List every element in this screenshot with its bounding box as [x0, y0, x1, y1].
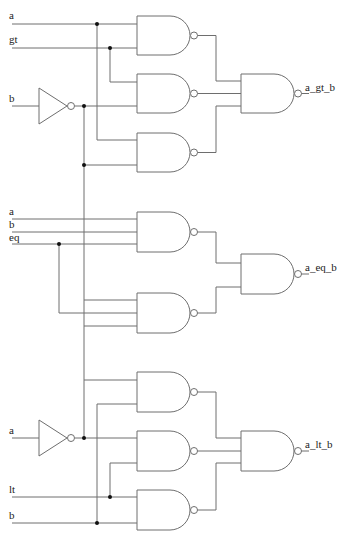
nand-lt-3-bubble — [191, 507, 198, 514]
nand-gt-3-bubble — [191, 149, 198, 156]
input-label-b-eq: b — [9, 218, 15, 230]
wire-eq2-out — [198, 287, 242, 313]
eq-section: a b eq a_eq_b — [9, 205, 337, 333]
junction-a — [95, 22, 99, 26]
nand-lt-1-bubble — [191, 389, 198, 396]
wire-gt3-out — [198, 106, 242, 153]
inverter-b-bubble — [68, 103, 75, 110]
wire-lt1-out — [198, 392, 242, 438]
junction-notb-2 — [82, 163, 86, 167]
nand-eq-2 — [137, 293, 190, 333]
nand-gt-1 — [137, 16, 190, 55]
input-label-a-lt: a — [9, 424, 14, 436]
nand-gt-2 — [137, 74, 190, 113]
junction-b-lt — [95, 521, 99, 525]
nand-lt-output-bubble — [295, 448, 302, 455]
inverter-b — [39, 88, 67, 124]
comparator-circuit: a gt b a_gt_b — [0, 0, 347, 539]
nand-gt-2-bubble — [191, 90, 198, 97]
inverter-a-bubble — [68, 435, 75, 442]
input-label-gt: gt — [9, 33, 18, 45]
wire-eq1-out — [198, 232, 242, 263]
input-label-eq: eq — [9, 231, 20, 243]
input-label-a: a — [9, 9, 14, 21]
nand-lt-output — [241, 431, 294, 471]
output-label-a-gt-b: a_gt_b — [305, 81, 335, 93]
wire-lt3-out — [198, 463, 242, 510]
nand-eq-1-bubble — [191, 229, 198, 236]
output-label-a-eq-b: a_eq_b — [305, 261, 337, 273]
junction-gt — [108, 46, 112, 50]
junction-notb — [82, 104, 86, 108]
wire-notb-vertical — [84, 106, 137, 326]
nand-gt-3 — [137, 133, 190, 172]
nand-gt-1-bubble — [191, 32, 198, 39]
input-label-b-lt: b — [9, 509, 15, 521]
lt-section: a lt b a_lt_b — [9, 326, 333, 530]
nand-lt-1 — [137, 372, 190, 412]
output-label-a-lt-b: a_lt_b — [305, 438, 333, 450]
inverter-a — [39, 420, 67, 456]
nand-eq-output-bubble — [295, 271, 302, 278]
nand-eq-1 — [137, 212, 190, 252]
wire-lt-branch — [110, 463, 137, 497]
nand-eq-2-bubble — [191, 310, 198, 317]
input-label-lt: lt — [9, 483, 15, 495]
junction-eq — [57, 242, 61, 246]
nand-eq-output — [241, 254, 294, 294]
wire-gt-branch — [110, 48, 137, 82]
input-label-a-eq: a — [9, 205, 14, 217]
junction-lt — [108, 495, 112, 499]
nand-lt-2-bubble — [191, 448, 198, 455]
nand-lt-3 — [137, 490, 190, 530]
nand-gt-output — [241, 74, 294, 113]
wire-gt1-out — [198, 36, 242, 82]
input-label-b: b — [9, 92, 15, 104]
junction-nota — [82, 436, 86, 440]
wire-eq-branch — [59, 244, 137, 313]
nand-gt-output-bubble — [295, 90, 302, 97]
nand-lt-2 — [137, 431, 190, 471]
